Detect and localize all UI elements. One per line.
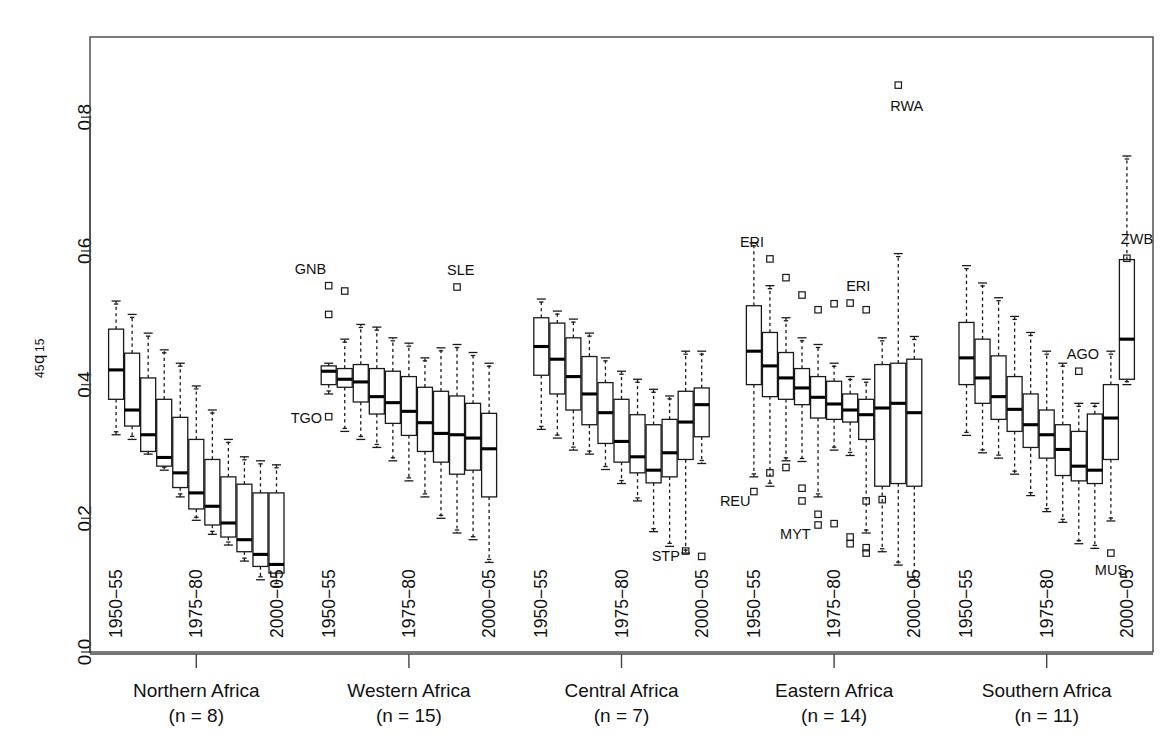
outlier-point bbox=[831, 301, 837, 307]
boxplot-box bbox=[353, 324, 368, 439]
boxplot-box bbox=[433, 348, 448, 518]
boxplot-box bbox=[630, 379, 645, 501]
boxplot-box bbox=[762, 256, 777, 486]
outlier-point bbox=[799, 292, 805, 298]
outlier-point bbox=[815, 511, 821, 517]
outlier-point bbox=[815, 307, 821, 313]
boxplot-box bbox=[550, 311, 565, 438]
boxplot-box bbox=[1007, 316, 1022, 474]
group-count-label: (n = 7) bbox=[594, 705, 649, 726]
boxplot-box bbox=[662, 396, 677, 546]
outlier-point bbox=[699, 553, 705, 559]
y-tick-label: 0.2 bbox=[74, 505, 95, 531]
outlier-country-label: AGO bbox=[1067, 346, 1099, 362]
outlier-point bbox=[325, 413, 331, 419]
outlier-point bbox=[767, 256, 773, 262]
x-tick-label: 2000−05 bbox=[692, 569, 712, 638]
boxplot-box bbox=[173, 363, 188, 497]
y-axis-ticks: 0.00.20.40.60.8 bbox=[74, 104, 95, 665]
outlier-point bbox=[342, 288, 348, 294]
outlier-country-label: ZWB bbox=[1121, 231, 1153, 247]
boxplot-box bbox=[269, 465, 284, 587]
boxplot-box bbox=[369, 327, 384, 447]
boxplot-box bbox=[157, 350, 172, 470]
x-tick-label: 2000−05 bbox=[1117, 569, 1137, 638]
boxplot-box bbox=[959, 266, 974, 436]
boxplot-box bbox=[466, 353, 481, 540]
boxplot-box bbox=[337, 288, 352, 432]
outlier-point bbox=[847, 300, 853, 306]
boxplot-box bbox=[482, 363, 497, 562]
boxplot-box bbox=[859, 307, 874, 557]
outlier-country-label: SLE bbox=[447, 262, 475, 278]
group-count-label: (n = 15) bbox=[376, 705, 442, 726]
group-name-label: Western Africa bbox=[347, 680, 471, 701]
boxplot-box bbox=[678, 351, 693, 554]
boxplot-box bbox=[875, 338, 890, 552]
outlier-point bbox=[325, 311, 331, 317]
x-tick-label: 1950−55 bbox=[106, 569, 126, 638]
boxplot-box bbox=[843, 300, 858, 547]
x-axis-period-ticks: 1950−551975−802000−051950−551975−802000−… bbox=[106, 569, 1137, 652]
boxplot-box bbox=[417, 358, 432, 497]
chart-page: 45 q 15 0.00.20.40.60.8 1950−551975−8020… bbox=[0, 0, 1167, 735]
x-tick-label: 1975−80 bbox=[399, 569, 419, 638]
boxplot-box bbox=[253, 461, 268, 580]
x-tick-label: 1950−55 bbox=[531, 569, 551, 638]
group-labels: Northern Africa(n = 8)Western Africa(n =… bbox=[133, 680, 1112, 726]
outlier-point bbox=[799, 485, 805, 491]
boxplot-box bbox=[141, 333, 156, 454]
x-tick-label: 1975−80 bbox=[612, 569, 632, 638]
boxplot-box bbox=[746, 243, 761, 495]
y-axis-label: 45 q 15 bbox=[29, 338, 48, 378]
outlier-country-label: TGO bbox=[291, 410, 322, 426]
x-tick-label: 1975−80 bbox=[824, 569, 844, 638]
boxplot-box bbox=[566, 319, 581, 450]
group-axis bbox=[90, 654, 1153, 668]
x-tick-label: 1950−55 bbox=[744, 569, 764, 638]
outlier-point bbox=[863, 307, 869, 313]
boxplot-box bbox=[694, 351, 709, 559]
boxplot-box bbox=[646, 389, 661, 531]
outlier-country-label: STP bbox=[652, 548, 680, 564]
outlier-country-label: MYT bbox=[780, 526, 811, 542]
group-count-label: (n = 8) bbox=[169, 705, 224, 726]
outlier-point bbox=[1076, 368, 1082, 374]
outlier-point bbox=[454, 284, 460, 290]
boxplot-box bbox=[534, 299, 549, 429]
x-tick-label: 2000−05 bbox=[267, 569, 287, 638]
boxplot-box bbox=[795, 292, 810, 504]
outlier-point bbox=[847, 534, 853, 540]
outlier-labels: GNBTGOSLESTPERIERIRWAREUMYTAGOMUSZWB bbox=[291, 98, 1153, 578]
boxplot-box bbox=[975, 283, 990, 453]
y-tick-label: 0.8 bbox=[74, 104, 95, 130]
boxplot-box bbox=[109, 301, 124, 435]
group-count-label: (n = 14) bbox=[801, 705, 867, 726]
outlier-country-label: ERI bbox=[740, 234, 764, 250]
boxplot-box bbox=[598, 358, 613, 470]
x-tick-label: 2000−05 bbox=[479, 569, 499, 638]
outlier-point bbox=[783, 464, 789, 470]
boxplot-box bbox=[891, 82, 906, 565]
x-tick-label: 1950−55 bbox=[956, 569, 976, 638]
boxplot-box bbox=[450, 284, 465, 533]
outlier-point bbox=[895, 82, 901, 88]
boxplot-box bbox=[1055, 363, 1070, 522]
boxplot-box bbox=[237, 457, 252, 561]
boxplot-chart: 45 q 15 0.00.20.40.60.8 1950−551975−8020… bbox=[0, 0, 1167, 735]
boxplot-box bbox=[827, 301, 842, 527]
boxplot-box bbox=[1119, 156, 1134, 385]
boxplot-box bbox=[907, 336, 922, 579]
group-name-label: Southern Africa bbox=[982, 680, 1112, 701]
y-tick-label: 0.6 bbox=[74, 238, 95, 264]
y-axis-label-prefix: 45 bbox=[33, 364, 47, 378]
outlier-point bbox=[783, 274, 789, 280]
y-tick-label: 0.4 bbox=[74, 371, 95, 398]
y-axis-label-q: q bbox=[29, 355, 48, 364]
group-name-label: Eastern Africa bbox=[775, 680, 894, 701]
group-name-label: Northern Africa bbox=[133, 680, 260, 701]
x-tick-label: 1975−80 bbox=[1037, 569, 1057, 638]
boxplot-box bbox=[1039, 351, 1054, 511]
outlier-country-label: REU bbox=[720, 493, 751, 509]
boxplot-box bbox=[125, 314, 140, 439]
